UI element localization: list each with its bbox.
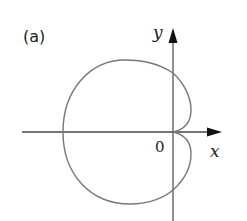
y-axis-arrow-icon — [169, 28, 178, 43]
y-axis-label: y — [153, 22, 163, 42]
origin-label: 0 — [155, 138, 165, 156]
x-axis-arrow-icon — [207, 128, 222, 137]
x-axis-label: x — [210, 141, 220, 161]
panel-label: (a) — [23, 27, 45, 46]
